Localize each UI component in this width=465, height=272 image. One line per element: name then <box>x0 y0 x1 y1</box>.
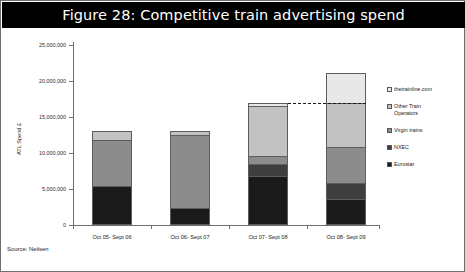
bar-segment[interactable] <box>326 73 366 104</box>
legend-item-label: NXEC <box>394 144 409 151</box>
y-tick-label: 5,000,000 <box>1 186 66 192</box>
bar-segment[interactable] <box>92 131 132 140</box>
bar-segment[interactable] <box>248 103 288 106</box>
bar-segment[interactable] <box>248 164 288 176</box>
x-tick-label: Oct 06- Sept 07 <box>150 234 230 240</box>
bar-segment[interactable] <box>326 147 366 184</box>
bar-segment[interactable] <box>326 103 366 146</box>
y-tick-label: 0 <box>1 222 66 228</box>
x-tick-mark <box>229 225 230 229</box>
figure-container: Figure 28: Competitive train advertising… <box>0 0 465 272</box>
bar-stack[interactable] <box>248 28 288 225</box>
bar-stack[interactable] <box>326 28 366 225</box>
legend-item-label: Other Train Operators <box>394 103 421 117</box>
legend-swatch <box>387 145 392 150</box>
x-tick-mark <box>379 225 380 229</box>
chart-legend: thetrainline.comOther Train OperatorsVir… <box>387 86 465 178</box>
bar-segment[interactable] <box>170 208 210 225</box>
legend-swatch <box>387 87 392 92</box>
legend-item[interactable]: thetrainline.com <box>387 86 465 93</box>
y-tick-label: 15,000,000 <box>1 114 66 120</box>
legend-item[interactable]: NXEC <box>387 144 465 151</box>
x-axis-line <box>73 225 379 226</box>
y-axis-line <box>73 42 74 226</box>
legend-item-label: Virgin trains <box>394 127 422 134</box>
bar-segment[interactable] <box>326 199 366 225</box>
x-tick-mark <box>307 225 308 229</box>
figure-title: Figure 28: Competitive train advertising… <box>62 7 405 23</box>
y-tick-label: 25,000,000 <box>1 42 66 48</box>
bar-stack[interactable] <box>92 28 132 225</box>
legend-item-label: Eurostar <box>394 161 414 168</box>
y-tick-label: 20,000,000 <box>1 78 66 84</box>
bar-stack[interactable] <box>170 28 210 225</box>
legend-item-label: thetrainline.com <box>394 86 432 93</box>
legend-swatch <box>387 128 392 133</box>
y-tick-mark <box>69 117 73 118</box>
x-tick-mark <box>151 225 152 229</box>
x-tick-label: Oct 05- Sept 06 <box>72 234 152 240</box>
projection-dashed-line <box>288 103 366 104</box>
y-tick-mark <box>69 81 73 82</box>
bar-segment[interactable] <box>170 135 210 208</box>
chart-plot-area: ATL Spend £ 25,000,00020,000,00015,000,0… <box>1 28 465 272</box>
x-tick-label: Oct 08- Sept 09 <box>306 234 386 240</box>
x-tick-label: Oct 07- Sept 08 <box>228 234 308 240</box>
y-tick-label: 10,000,000 <box>1 150 66 156</box>
bar-segment[interactable] <box>92 140 132 186</box>
y-tick-mark <box>69 45 73 46</box>
bar-segment[interactable] <box>170 131 210 135</box>
legend-item[interactable]: Eurostar <box>387 161 465 168</box>
bar-segment[interactable] <box>248 156 288 164</box>
bar-segment[interactable] <box>248 106 288 156</box>
source-note: Source: Neilsen <box>7 246 49 252</box>
legend-item[interactable]: Other Train Operators <box>387 103 465 117</box>
y-tick-mark <box>69 189 73 190</box>
legend-swatch <box>387 162 392 167</box>
figure-title-bar: Figure 28: Competitive train advertising… <box>2 2 465 28</box>
legend-item[interactable]: Virgin trains <box>387 127 465 134</box>
y-tick-mark <box>69 153 73 154</box>
x-tick-mark <box>73 225 74 229</box>
legend-swatch <box>387 104 392 109</box>
bar-segment[interactable] <box>248 176 288 225</box>
bar-segment[interactable] <box>92 186 132 225</box>
bar-segment[interactable] <box>326 183 366 198</box>
